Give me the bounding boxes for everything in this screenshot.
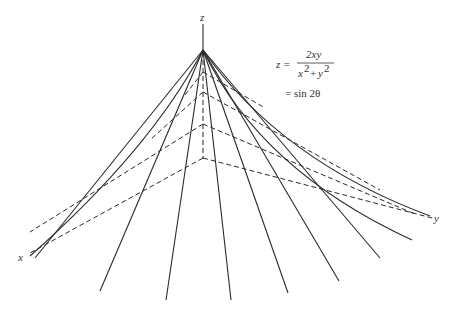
boundary-curve-y2 <box>203 50 412 240</box>
ruling-6 <box>203 50 339 281</box>
svg-text:y: y <box>317 67 323 79</box>
level-line-mid-right <box>203 124 415 214</box>
svg-text:x: x <box>297 67 303 79</box>
surface-diagram: z x y z = 2xy x 2 + y 2 = sin 2θ <box>0 0 456 312</box>
ruling-1 <box>35 50 203 258</box>
svg-text:z =: z = <box>275 58 290 70</box>
level-line-top-left <box>185 72 203 95</box>
svg-text:2xy: 2xy <box>306 48 321 60</box>
level-line-mid-left <box>30 124 203 232</box>
ruling-2 <box>100 50 203 291</box>
ruling-5 <box>203 50 288 293</box>
svg-text:= sin 2θ: = sin 2θ <box>285 87 320 99</box>
x-axis-hidden <box>30 158 203 253</box>
ruling-7 <box>203 50 380 258</box>
svg-text:2: 2 <box>324 62 330 74</box>
svg-text:2: 2 <box>304 62 310 74</box>
svg-text:+: + <box>310 67 316 79</box>
y-axis-hidden <box>203 158 432 218</box>
x-axis-label: x <box>17 251 23 263</box>
y-axis-label: y <box>433 212 439 224</box>
equation: z = 2xy x 2 + y 2 = sin 2θ <box>275 48 334 99</box>
level-line-upper-left <box>150 92 203 140</box>
z-axis-label: z <box>199 11 205 23</box>
boundary-curve-y <box>203 50 430 216</box>
ruling-4 <box>203 50 231 300</box>
